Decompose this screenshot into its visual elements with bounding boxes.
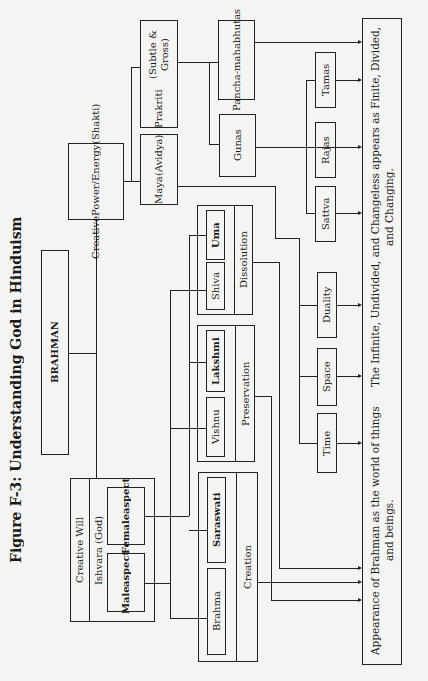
edge-prakriti-branch	[178, 62, 209, 63]
group-preservation-label: Preservation	[236, 325, 255, 462]
edge-shakti-prakriti-h	[131, 67, 140, 68]
node-creative-power-label: Creative Power/ Energy (Shakti)	[68, 143, 124, 220]
edge-male-out	[145, 583, 170, 584]
node-brahman-label: BRAHMAN	[41, 250, 69, 455]
edge-male-vishnu	[170, 428, 206, 429]
edge-male-brahma	[170, 618, 207, 619]
node-appearance-label: Appearance of Brahman as the world of th…	[362, 18, 402, 665]
edge-maya-time	[299, 443, 317, 444]
node-shiva-label: Shiva	[206, 262, 225, 310]
node-panchamahabhutas-label: Pancha- mahabhutas	[218, 20, 255, 100]
node-tamas-label: Tamas	[315, 52, 336, 108]
group-dissolution-label: Dissolution	[235, 205, 253, 315]
node-maya-label: Maya (Avidya)	[140, 134, 178, 205]
edge-shakti-maya	[124, 181, 140, 182]
edge-prakriti-v	[209, 62, 210, 144]
edge-gunas-rajas	[256, 147, 358, 148]
edge-space-appearance	[337, 376, 358, 377]
ishvara-label: Ishvara (God)	[90, 478, 107, 622]
edge-prakriti-gunas	[209, 144, 219, 145]
text-line: (Avidya)	[153, 135, 165, 176]
text-line: Energy	[90, 144, 102, 181]
appearance-line-2: The Infinite, Undivided, and Changeless …	[368, 18, 396, 396]
text-line: Prakriti	[153, 89, 165, 128]
edge-preservation-appearance	[271, 600, 358, 601]
text-line: Female	[120, 514, 132, 554]
text-line: Maya	[153, 176, 165, 204]
edge-duality-appearance	[337, 305, 358, 306]
edge-preservation-out	[255, 396, 271, 397]
node-duality-label: Duality	[317, 272, 337, 338]
edge-shakti-prakriti-v	[131, 67, 132, 181]
edge-gunas-tamas	[306, 80, 315, 81]
node-vishnu-label: Vishnu	[206, 397, 225, 457]
group-creative-will-label: Creative Will	[70, 478, 89, 622]
node-time-label: Time	[317, 413, 337, 473]
edge-dissolution-out	[253, 262, 279, 263]
edge-preservation-v	[271, 396, 272, 600]
edge-maya-v2	[299, 238, 300, 443]
edge-maya-out	[178, 186, 275, 187]
text-line: mahabhutas	[231, 9, 243, 71]
node-rajas-label: Rajas	[315, 122, 336, 178]
edge-dissolution-appearance	[279, 568, 358, 569]
edge-maya-space	[299, 376, 317, 377]
text-line: Power/	[90, 181, 102, 216]
node-prakriti-label: Prakriti (Subtle & Gross)	[140, 20, 178, 128]
node-saraswati-label: Saraswati	[207, 477, 226, 563]
node-female-aspect-label: Female aspect	[107, 487, 145, 545]
edge-creation-appearance	[258, 582, 358, 583]
node-gunas-label: Gunas	[219, 114, 256, 177]
edge-male-v	[170, 290, 171, 618]
edge-brahman-trunk	[69, 353, 97, 354]
appearance-line-1: Appearance of Brahman as the world of th…	[368, 396, 396, 665]
text-line: Pancha-	[231, 71, 243, 111]
text-line: (Subtle & Gross)	[147, 20, 171, 89]
edge-dissolution-v	[279, 262, 280, 568]
text-line: Creative	[90, 216, 102, 259]
edge-female-out	[145, 516, 189, 517]
text-line: (Shakti)	[90, 104, 102, 144]
edge-gunas-sattva	[306, 213, 315, 214]
edge-pancha-appearance	[255, 42, 358, 43]
edge-maya-v1	[275, 186, 276, 238]
text-line: aspect	[120, 478, 132, 514]
node-male-aspect-label: Male aspect	[107, 553, 145, 612]
node-brahma-label: Brahma	[207, 568, 226, 655]
text-line: Male	[120, 587, 132, 615]
node-sattva-label: Sattva	[315, 186, 336, 242]
edge-female-saraswati	[189, 530, 207, 531]
node-uma-label: Uma	[206, 210, 225, 260]
edge-female-lakshmi	[189, 362, 206, 363]
text-line: aspect	[120, 551, 132, 587]
edge-brahman-will	[96, 470, 97, 478]
group-creation-label: Creation	[237, 472, 258, 662]
edge-female-uma	[189, 235, 206, 236]
edge-time-appearance	[337, 443, 358, 444]
node-lakshmi-label: Lakshmi	[206, 330, 225, 392]
edge-gunas-branch-v	[306, 80, 307, 213]
edge-prakriti-pancha	[209, 62, 218, 63]
node-space-label: Space	[317, 348, 337, 406]
figure-title: Figure F-3: Understanding God in Hinduis…	[6, 180, 26, 600]
edge-male-shiva	[170, 290, 206, 291]
edge-tamas-appearance	[336, 80, 358, 81]
edge-maya-h2	[275, 238, 299, 239]
edge-female-v	[189, 235, 190, 516]
edge-sattva-appearance	[336, 213, 358, 214]
edge-maya-duality	[299, 305, 317, 306]
